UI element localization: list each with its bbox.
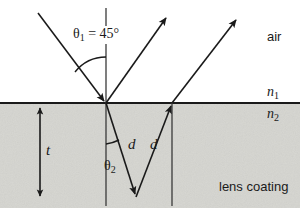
refractive-index-n1-label: n1 <box>267 85 279 101</box>
theta2-label: θ2 <box>104 159 116 175</box>
path-length-d1-label: d <box>128 137 136 152</box>
lens-coating-label: lens coating <box>219 180 288 193</box>
thin-film-interference-diagram: θ1 = 45° θ2 d d t air n1 n2 lens coating <box>0 0 300 214</box>
path-length-d2-label: d <box>150 137 158 152</box>
theta1-label: θ1 = 45° <box>73 27 119 43</box>
thickness-t-label: t <box>46 143 50 158</box>
refractive-index-n2-label: n2 <box>267 107 279 123</box>
reflected-ray-2 <box>172 20 236 103</box>
air-label: air <box>267 30 281 43</box>
